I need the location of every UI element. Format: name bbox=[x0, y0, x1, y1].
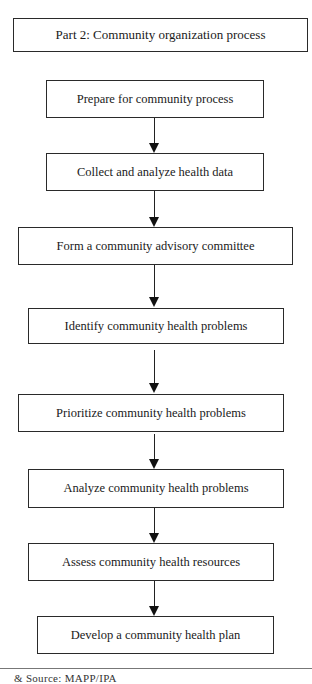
footnote-text: & Source: MAPP/IPA bbox=[14, 672, 117, 684]
connector-line bbox=[154, 508, 155, 533]
arrow-down-icon bbox=[149, 606, 159, 616]
arrow-down-icon bbox=[149, 459, 159, 469]
step-label: Collect and analyze health data bbox=[77, 165, 233, 180]
connector-line bbox=[154, 434, 155, 459]
step-form-committee: Form a community advisory committee bbox=[18, 227, 293, 265]
footnote-divider bbox=[0, 668, 312, 669]
title-box: Part 2: Community organization process bbox=[13, 18, 308, 52]
step-label: Analyze community health problems bbox=[63, 481, 248, 496]
step-label: Assess community health resources bbox=[62, 555, 240, 570]
step-label: Develop a community health plan bbox=[71, 628, 240, 643]
connector-line bbox=[154, 118, 155, 143]
arrow-down-icon bbox=[149, 383, 159, 393]
arrow-down-icon bbox=[149, 217, 159, 227]
step-identify: Identify community health problems bbox=[28, 308, 284, 344]
step-analyze: Analyze community health problems bbox=[28, 469, 284, 508]
step-prepare: Prepare for community process bbox=[46, 80, 264, 118]
step-collect: Collect and analyze health data bbox=[46, 153, 264, 191]
connector-line bbox=[154, 350, 155, 384]
connector-line bbox=[154, 191, 155, 217]
arrow-down-icon bbox=[149, 533, 159, 543]
arrow-down-icon bbox=[149, 297, 159, 307]
connector-line bbox=[154, 265, 155, 298]
arrow-down-icon bbox=[149, 143, 159, 153]
step-label: Identify community health problems bbox=[65, 319, 248, 334]
step-assess: Assess community health resources bbox=[28, 543, 274, 581]
step-develop-plan: Develop a community health plan bbox=[37, 616, 274, 654]
step-prioritize: Prioritize community health problems bbox=[18, 394, 284, 432]
step-label: Form a community advisory committee bbox=[57, 239, 255, 254]
title-text: Part 2: Community organization process bbox=[56, 27, 266, 43]
step-label: Prepare for community process bbox=[77, 92, 234, 107]
step-label: Prioritize community health problems bbox=[56, 406, 246, 421]
connector-line bbox=[154, 581, 155, 606]
